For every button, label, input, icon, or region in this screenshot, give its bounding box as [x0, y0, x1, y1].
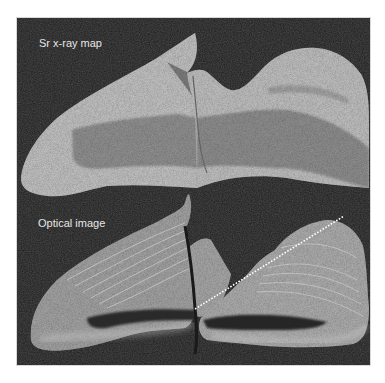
panel-label-sr-xray: Sr x-ray map [39, 37, 102, 49]
panel-label-optical: Optical image [38, 217, 105, 229]
figure-graphics [17, 18, 371, 366]
figure-panel: Sr x-ray map Optical image [16, 17, 371, 366]
